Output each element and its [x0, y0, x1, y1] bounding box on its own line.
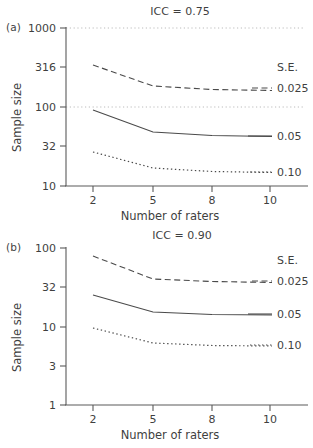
panel-a-xlabel: Number of raters: [105, 209, 235, 223]
panel-a-xtick-8: 8: [200, 194, 224, 207]
panel-b-ylabel: Sample size: [10, 303, 24, 372]
figure-container: (a) ICC = 0.75 1000 316 100 32 10 2 5 8 …: [0, 0, 313, 448]
panel-a-series-label-0025: 0.025: [277, 82, 309, 95]
panel-b-ytick-32: 32: [0, 281, 56, 294]
panel-a-ytick-10: 10: [0, 180, 56, 193]
panel-b-ytick-3: 3: [0, 360, 56, 373]
panel-a-ytick-1000: 1000: [0, 22, 56, 35]
panel-b-series-label-0025: 0.025: [277, 275, 309, 288]
panel-b-ytick-100: 100: [0, 242, 56, 255]
series-line-0.10: [93, 152, 272, 173]
panel-a-ytick-100: 100: [0, 101, 56, 114]
panel-b-xtick-8: 8: [200, 413, 224, 426]
panel-b-series-label-010: 0.10: [277, 339, 302, 352]
panel-a-series-label-010: 0.10: [277, 166, 302, 179]
panel-a: (a) ICC = 0.75 1000 316 100 32 10 2 5 8 …: [0, 0, 313, 224]
panel-a-title: ICC = 0.75: [120, 5, 240, 18]
panel-b-xtick-5: 5: [141, 413, 165, 426]
panel-a-xtick-5: 5: [141, 194, 165, 207]
panel-a-xtick-10: 10: [258, 194, 282, 207]
panel-b-title: ICC = 0.90: [122, 229, 242, 242]
panel-b-series-label-005: 0.05: [277, 308, 302, 321]
series-line-0.025: [93, 256, 272, 283]
series-line-0.05: [93, 110, 272, 137]
series-line-0.05: [93, 295, 272, 315]
panel-a-xtick-2: 2: [81, 194, 105, 207]
panel-b: (b) ICC = 0.90 100 32 10 3 1 2 5 8 10 Nu…: [0, 224, 313, 448]
panel-a-se-header: S.E.: [277, 61, 298, 74]
series-line-0.10: [93, 328, 272, 346]
series-line-0.025: [93, 65, 272, 91]
panel-a-ytick-32: 32: [0, 140, 56, 153]
panel-a-ytick-316: 316: [0, 61, 56, 74]
panel-a-ylabel: Sample size: [10, 83, 24, 152]
panel-b-xlabel: Number of raters: [105, 428, 235, 442]
panel-a-series-label-005: 0.05: [277, 130, 302, 143]
panel-b-xtick-10: 10: [258, 413, 282, 426]
panel-b-xtick-2: 2: [81, 413, 105, 426]
panel-b-ytick-1: 1: [0, 399, 56, 412]
panel-b-ytick-10: 10: [0, 321, 56, 334]
panel-b-se-header: S.E.: [277, 254, 298, 267]
